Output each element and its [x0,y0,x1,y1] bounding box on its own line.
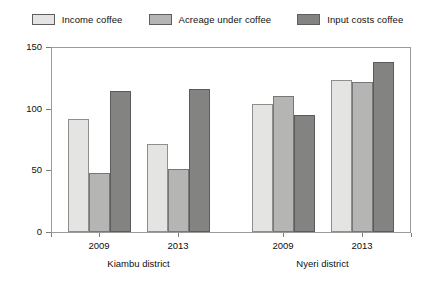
x-tick-label-3: 2013 [351,240,372,251]
y-tick-label-100: 100 [26,104,42,114]
bar-0-0 [68,119,89,232]
bar-2-1 [273,96,294,232]
legend-swatch-acreage-under-coffee [149,14,172,25]
legend-swatch-input-costs-coffee [297,14,320,25]
x-tick-label-1: 2013 [167,240,188,251]
bars-layer [51,47,411,232]
group-label-0: Kiambu district [107,258,169,269]
legend-label-acreage-under-coffee: Acreage under coffee [179,14,272,25]
bar-1-1 [168,169,189,232]
bar-3-2 [373,62,394,232]
y-tick-label-50: 50 [31,165,42,175]
bar-3-0 [331,80,352,232]
x-tick-mark-0 [51,233,52,237]
bar-1-2 [189,89,210,232]
bar-0-1 [89,173,110,232]
bar-3-1 [352,82,373,232]
y-tick-mark-150 [46,47,51,48]
x-tick-mark-1 [99,233,100,237]
bar-2-0 [252,104,273,232]
legend-item-input-costs-coffee: Input costs coffee [297,14,403,25]
legend-label-input-costs-coffee: Input costs coffee [327,14,403,25]
y-tick-mark-50 [46,170,51,171]
x-tick-mark-3 [283,233,284,237]
x-tick-mark-5 [411,233,412,237]
y-axis: 050100150 [0,0,51,286]
y-tick-label-150: 150 [26,42,42,52]
bar-2-2 [294,115,315,232]
bar-0-2 [110,91,131,232]
group-label-1: Nyeri district [296,258,348,269]
x-tick-mark-2 [178,233,179,237]
y-tick-mark-100 [46,109,51,110]
y-tick-label-0: 0 [37,227,42,237]
x-tick-label-2: 2009 [272,240,293,251]
legend-item-acreage-under-coffee: Acreage under coffee [149,14,272,25]
x-tick-mark-4 [362,233,363,237]
bar-chart: Income coffee Acreage under coffee Input… [0,0,435,286]
bar-1-0 [147,144,168,232]
legend-label-income-coffee: Income coffee [62,14,123,25]
x-tick-label-0: 2009 [88,240,109,251]
chart-legend: Income coffee Acreage under coffee Input… [0,8,435,30]
